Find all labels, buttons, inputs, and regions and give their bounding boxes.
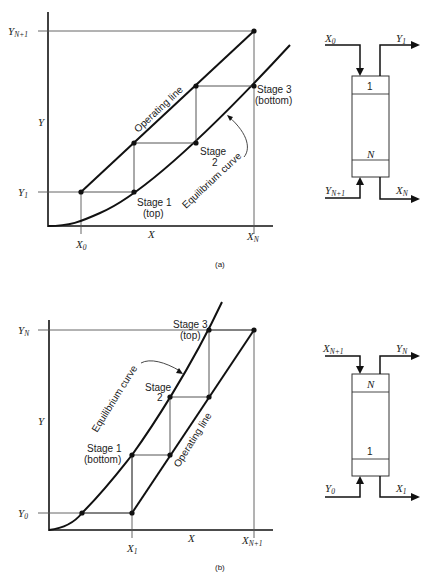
stage-1-note: (top) xyxy=(143,208,164,219)
stream-out-bottom: X1 xyxy=(395,482,406,496)
figure-b-column: N 1 XN+1 YN Y0 X1 xyxy=(322,342,420,501)
point xyxy=(131,140,136,145)
y-axis-label: Y xyxy=(38,415,46,427)
figure-a-column: 1 N X0 Y1 YN+1 XN xyxy=(324,32,420,203)
column-bottom-stage: 1 xyxy=(367,446,373,457)
equilibrium-pointer-line xyxy=(228,116,247,157)
point xyxy=(129,452,134,457)
tick-x-right: XN xyxy=(246,230,260,244)
arrow-right-icon xyxy=(411,493,420,501)
tick-y-bottom: Y0 xyxy=(18,507,28,521)
stage-1-label: Stage 1 xyxy=(87,443,122,454)
figure-b-chart: YN Y0 X1 XN+1 Y X Equilibrium curve Oper… xyxy=(18,302,273,572)
point xyxy=(251,83,256,88)
point xyxy=(129,510,134,515)
column-bottom-stage: N xyxy=(366,148,375,160)
equilibrium-curve-label: Equilibrium curve xyxy=(89,363,139,434)
arrow-right-icon xyxy=(411,195,420,203)
figure-a-chart: YN+1 Y1 X0 XN Y X Operating line Equilib… xyxy=(8,12,292,269)
inlet-top-pipe xyxy=(325,45,360,70)
stage-3-label: Stage 3 xyxy=(257,84,292,95)
point xyxy=(251,327,256,332)
outlet-top-pipe xyxy=(380,356,413,374)
stream-out-bottom: XN xyxy=(395,184,409,198)
tick-y-top: YN+1 xyxy=(8,25,28,39)
stream-out-top: Y1 xyxy=(396,32,406,46)
stream-in-bottom: YN+1 xyxy=(325,184,345,198)
operating-line-label: Operating line xyxy=(132,84,185,135)
arrow-down-icon xyxy=(356,366,364,374)
tick-x-left: X0 xyxy=(75,238,87,252)
point xyxy=(78,189,83,194)
stream-in-top: XN+1 xyxy=(322,342,344,356)
diagram-canvas: YN+1 Y1 X0 XN Y X Operating line Equilib… xyxy=(0,0,442,573)
column-top-stage: 1 xyxy=(367,81,373,92)
arrow-right-icon xyxy=(411,41,420,49)
point xyxy=(193,140,198,145)
equilibrium-pointer-line xyxy=(141,361,180,371)
column-top-stage: N xyxy=(366,378,375,390)
stream-in-top: X0 xyxy=(324,32,336,46)
stage-3-label: Stage 3 xyxy=(173,319,208,330)
stream-in-bottom: Y0 xyxy=(325,482,335,496)
tick-y-bottom: Y1 xyxy=(18,186,28,200)
figure-a-caption: (a) xyxy=(215,260,225,269)
point xyxy=(131,189,136,194)
outlet-top-pipe xyxy=(380,45,413,76)
point xyxy=(167,394,172,399)
arrow-right-icon xyxy=(411,352,420,360)
stage-2-note: 2 xyxy=(157,392,163,403)
stage-3-note: (bottom) xyxy=(255,95,292,106)
point xyxy=(193,83,198,88)
arrow-down-icon xyxy=(356,68,364,76)
arrow-up-icon xyxy=(356,476,364,484)
figure-b-caption: (b) xyxy=(215,563,225,572)
tick-x-right: XN+1 xyxy=(241,534,263,548)
stage-2-note: 2 xyxy=(212,157,218,168)
x-axis-label: X xyxy=(187,532,196,544)
tick-y-top: YN xyxy=(18,324,30,338)
point xyxy=(167,452,172,457)
x-axis-label: X xyxy=(147,228,156,240)
operating-line-label: Operating line xyxy=(171,410,214,469)
inlet-top-pipe xyxy=(325,356,360,368)
tick-x-left: X1 xyxy=(126,542,137,556)
stage-1-label: Stage 1 xyxy=(137,197,172,208)
stage-3-note: (top) xyxy=(180,330,201,341)
arrow-up-icon xyxy=(356,177,364,185)
stage-1-note: (bottom) xyxy=(84,454,121,465)
stream-out-top: YN xyxy=(396,342,408,356)
point xyxy=(251,28,256,33)
point xyxy=(206,394,211,399)
y-axis-label: Y xyxy=(38,116,46,128)
point xyxy=(79,510,84,515)
stage-2-label: Stage xyxy=(200,146,227,157)
